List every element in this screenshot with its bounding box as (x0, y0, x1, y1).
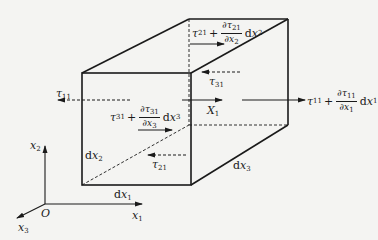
dimension-dx3: dx3 (233, 160, 251, 173)
coordinate-axes (17, 146, 142, 218)
axis-label-x1: x1 (132, 210, 143, 223)
origin-label: O (41, 208, 50, 219)
stress-label-tau21-top: τ21 + ∂τ21 ∂x2 dx2 (192, 21, 263, 46)
axis-label-x2: x2 (30, 140, 41, 153)
dimension-dx2: dx2 (85, 150, 103, 163)
body-force-label-x1: X1 (207, 105, 219, 118)
stress-label-tau31-back: τ31 (209, 76, 224, 89)
force-arrows (58, 44, 305, 155)
stress-label-tau11-right: τ11 + ∂τ11 ∂x1 dx1 (307, 89, 378, 114)
stress-label-tau21-bottom: τ21 (152, 159, 167, 172)
stress-label-tau31-front: τ31 + ∂τ31 ∂x3 dx3 (110, 105, 181, 130)
axis-label-x3: x3 (18, 222, 29, 235)
stress-label-tau11-left: τ11 (56, 88, 71, 101)
dimension-dx1: dx1 (114, 189, 132, 202)
